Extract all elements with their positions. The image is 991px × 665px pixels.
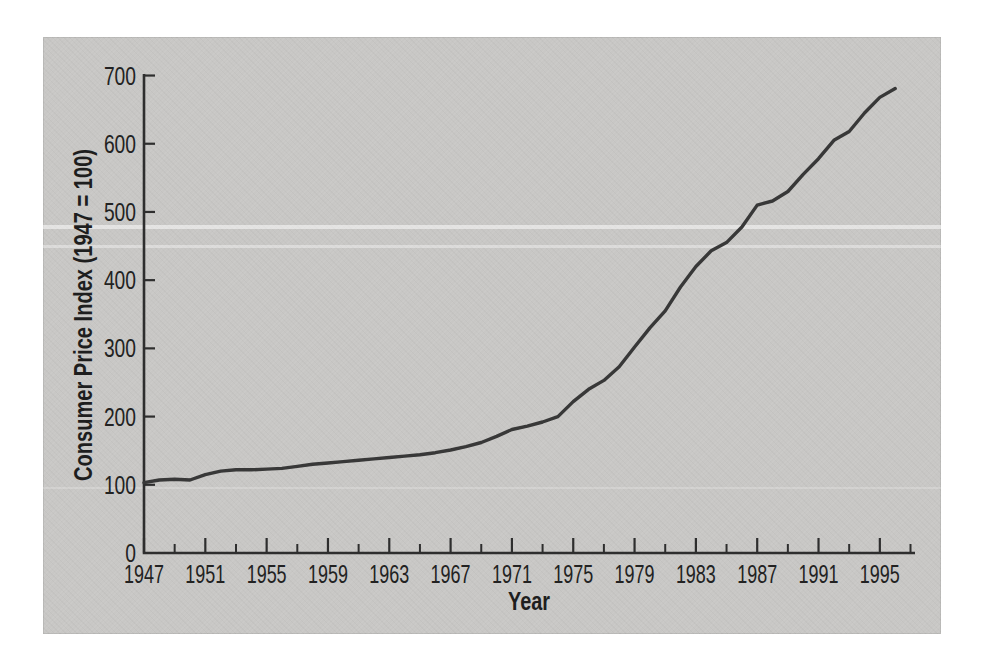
y-tick-label: 700	[104, 62, 136, 90]
x-tick-label: 1963	[369, 560, 409, 588]
x-tick-label: 1995	[860, 560, 900, 588]
x-tick-label: 1951	[185, 560, 225, 588]
y-tick-label: 500	[104, 198, 136, 226]
x-tick-label: 1983	[676, 560, 716, 588]
y-tick-label: 100	[104, 471, 136, 499]
y-axis-title: Consumer Price Index (1947 = 100)	[69, 149, 97, 481]
figure: Consumer Price Index (1947 = 100) Year 0…	[0, 0, 991, 665]
x-tick-label: 1971	[492, 560, 532, 588]
y-tick-label: 600	[104, 130, 136, 158]
axis-lines	[144, 74, 915, 553]
x-tick-label: 1947	[124, 560, 164, 588]
x-tick-label: 1987	[737, 560, 777, 588]
cpi-line-chart: Consumer Price Index (1947 = 100) Year 0…	[0, 0, 991, 665]
y-tick-label: 300	[104, 334, 136, 362]
x-axis-title: Year	[508, 587, 550, 615]
x-tick-label: 1967	[431, 560, 471, 588]
y-tick-label: 200	[104, 403, 136, 431]
x-tick-label: 1955	[247, 560, 287, 588]
axes-group: 0100200300400500600700194719511955195919…	[104, 62, 915, 588]
y-tick-label: 400	[104, 266, 136, 294]
series-group	[144, 89, 895, 483]
x-tick-label: 1979	[615, 560, 655, 588]
x-tick-label: 1991	[799, 560, 839, 588]
x-tick-label: 1975	[553, 560, 593, 588]
x-tick-label: 1959	[308, 560, 348, 588]
cpi-line	[144, 89, 895, 483]
